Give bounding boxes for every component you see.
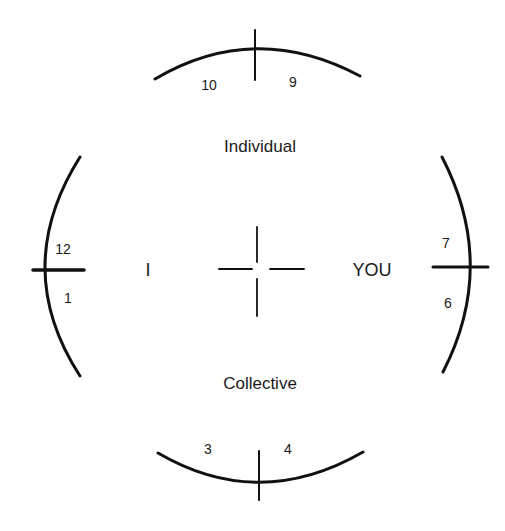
position-12: 12 (55, 242, 71, 256)
bottom-arc (158, 452, 363, 482)
label-individual: Individual (224, 138, 296, 155)
position-7: 7 (442, 236, 450, 250)
position-6: 6 (444, 296, 452, 310)
label-collective: Collective (223, 375, 297, 392)
left-arc (45, 157, 80, 376)
position-9: 9 (289, 75, 297, 89)
label-you: YOU (352, 261, 391, 279)
position-4: 4 (284, 442, 292, 456)
label-i: I (145, 261, 150, 279)
position-1: 1 (64, 291, 72, 305)
quadrant-diagram: Individual Collective I YOU 10 9 12 1 7 … (0, 0, 505, 531)
position-10: 10 (201, 78, 217, 92)
position-3: 3 (204, 442, 212, 456)
diagram-lines (0, 0, 505, 531)
right-arc (442, 157, 470, 372)
top-arc (155, 49, 360, 79)
